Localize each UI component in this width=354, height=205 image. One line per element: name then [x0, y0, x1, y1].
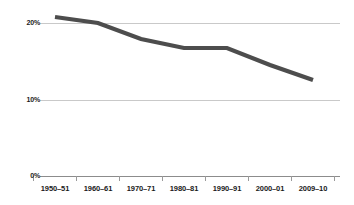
x-tick-label-1950-51: 1950–51: [41, 184, 70, 193]
x-tick-label-2009-10: 2009–10: [299, 184, 328, 193]
x-tick-label-1980-81: 1980–81: [170, 184, 199, 193]
x-tick-label-1960-61: 1960–61: [84, 184, 113, 193]
line-chart: 20% 10% 0% 1950–51 1960–61 1970–71 1980–…: [0, 0, 354, 205]
x-tick-label-2000-01: 2000–01: [256, 184, 285, 193]
x-tick-label-1990-91: 1990–91: [213, 184, 242, 193]
x-axis-tick-labels: 1950–51 1960–61 1970–71 1980–81 1990–91 …: [0, 0, 354, 205]
x-tick-label-1970-71: 1970–71: [127, 184, 156, 193]
